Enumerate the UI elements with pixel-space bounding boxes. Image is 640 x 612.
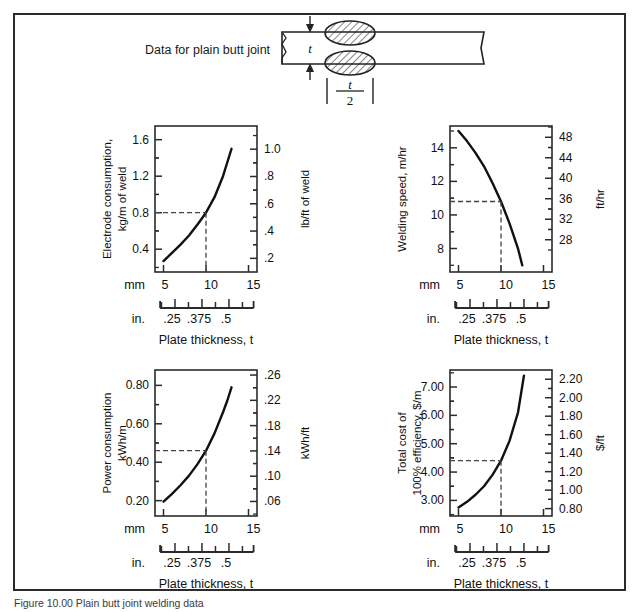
y-tick-label: 6.00 — [421, 408, 445, 422]
y2-tick-label: 1.80 — [559, 409, 583, 423]
x-tick-label-mm: 5 — [457, 278, 464, 292]
mm-unit-tag: mm — [124, 522, 145, 536]
y2-tick-label: 48 — [559, 130, 573, 144]
y2-tick-label: 0.80 — [559, 502, 583, 516]
y2-tick-label: 32 — [559, 212, 573, 226]
svg-text:2: 2 — [347, 93, 354, 108]
y2-tick-label: 28 — [559, 233, 573, 247]
x-tick-label-in: .25 — [163, 312, 180, 326]
chart-total-cost: 3.004.005.006.007.000.801.001.201.401.60… — [325, 362, 615, 592]
mm-unit-tag: mm — [419, 522, 440, 536]
y-axis-title: Total cost of — [396, 412, 408, 474]
y2-tick-label: .4 — [264, 224, 274, 238]
y2-axis-title: ft/hr — [594, 189, 606, 209]
x-tick-label-in: .375 — [482, 556, 506, 570]
y-tick-label: 3.00 — [421, 493, 445, 507]
y2-tick-label: .22 — [264, 393, 281, 407]
x-tick-label-in: .25 — [458, 556, 475, 570]
in-unit-tag: in. — [132, 312, 145, 326]
y2-tick-label: .14 — [264, 444, 281, 458]
x-tick-label-in: .25 — [458, 312, 475, 326]
y2-tick-label: .18 — [264, 419, 281, 433]
y2-tick-label: .10 — [264, 469, 281, 483]
y-tick-label: 7.00 — [421, 380, 445, 394]
x-tick-label-mm: 10 — [204, 278, 218, 292]
chart-electrode-consumption: 0.40.81.21.6.2.4.6.81.051015mm.25.375.5i… — [30, 118, 320, 348]
y-tick-label: 4.00 — [421, 465, 445, 479]
x-tick-label-in: .5 — [221, 556, 231, 570]
y2-tick-label: 1.60 — [559, 428, 583, 442]
y2-tick-label: 44 — [559, 151, 573, 165]
y-tick-label: 0.4 — [132, 242, 149, 256]
svg-text:t: t — [348, 77, 352, 92]
x-tick-label-mm: 15 — [247, 278, 261, 292]
in-unit-tag: in. — [427, 312, 440, 326]
y-tick-label: 0.80 — [126, 378, 150, 392]
y-tick-label: 10 — [431, 208, 445, 222]
y-axis-title: kWh/m — [116, 425, 128, 461]
x-tick-label-in: .25 — [163, 556, 180, 570]
x-axis-title: Plate thickness, t — [159, 333, 254, 347]
x-tick-label-in: .5 — [516, 312, 526, 326]
mm-unit-tag: mm — [124, 278, 145, 292]
data-curve — [164, 387, 232, 501]
header-left-label: Data for plain butt joint — [145, 43, 270, 57]
svg-text:t: t — [308, 41, 312, 56]
x-tick-label-mm: 5 — [162, 522, 169, 536]
y2-tick-label: 40 — [559, 171, 573, 185]
y2-axis-title: kWh/ft — [299, 426, 311, 459]
y2-tick-label: 2.00 — [559, 391, 583, 405]
x-tick-label-mm: 10 — [499, 278, 513, 292]
y2-tick-label: .2 — [264, 251, 274, 265]
y-tick-label: 0.8 — [132, 206, 149, 220]
butt-joint-diagram: t t 2 — [276, 12, 491, 112]
y-tick-label: 0.60 — [126, 417, 150, 431]
x-axis-title: Plate thickness, t — [159, 577, 254, 591]
y-tick-label: 12 — [431, 174, 445, 188]
data-curve — [164, 149, 232, 261]
y2-tick-label: .8 — [264, 169, 274, 183]
x-tick-label-mm: 10 — [204, 522, 218, 536]
x-tick-label-mm: 15 — [247, 522, 261, 536]
x-tick-label-mm: 15 — [542, 522, 556, 536]
x-tick-label-in: .375 — [187, 312, 211, 326]
x-axis-title: Plate thickness, t — [454, 333, 549, 347]
figure-caption: Figure 10.00 Plain butt joint welding da… — [14, 597, 626, 611]
x-tick-label-in: .375 — [187, 556, 211, 570]
y-tick-label: 1.6 — [132, 133, 149, 147]
x-tick-label-mm: 10 — [499, 522, 513, 536]
y-tick-label: 0.20 — [126, 494, 150, 508]
data-curve — [459, 131, 523, 265]
y2-tick-label: 1.00 — [559, 483, 583, 497]
chart-panel-welding-speed: 810121428323640444851015mm.25.375.5in.Pl… — [325, 118, 615, 348]
x-axis-title: Plate thickness, t — [454, 577, 549, 591]
chart-panel-electrode-consumption: 0.40.81.21.6.2.4.6.81.051015mm.25.375.5i… — [30, 118, 320, 348]
mm-unit-tag: mm — [419, 278, 440, 292]
x-tick-label-in: .375 — [482, 312, 506, 326]
plot-frame — [155, 126, 257, 272]
y2-tick-label: 2.20 — [559, 372, 583, 386]
in-unit-tag: in. — [132, 556, 145, 570]
y2-tick-label: .26 — [264, 368, 281, 382]
weld-joint-header: Data for plain butt joint Flat position … — [0, 8, 640, 113]
chart-welding-speed: 810121428323640444851015mm.25.375.5in.Pl… — [325, 118, 615, 348]
data-curve — [459, 376, 524, 508]
y2-tick-label: 1.0 — [264, 142, 281, 156]
x-tick-label-in: .5 — [516, 556, 526, 570]
y2-tick-label: .6 — [264, 197, 274, 211]
y-tick-label: 14 — [431, 141, 445, 155]
y-axis-title: 100% efficiency, $/m — [411, 390, 423, 495]
y-tick-label: 1.2 — [132, 169, 149, 183]
y-tick-label: 8 — [437, 242, 444, 256]
y2-tick-label: 1.20 — [559, 465, 583, 479]
y2-tick-label: 1.40 — [559, 446, 583, 460]
y-axis-title: Electrode consumption, — [101, 139, 113, 259]
chart-panel-total-cost: 3.004.005.006.007.000.801.001.201.401.60… — [325, 362, 615, 592]
y-tick-label: 0.40 — [126, 455, 150, 469]
y-axis-title: Power consumption — [101, 393, 113, 494]
chart-panel-power-consumption: 0.200.400.600.80.06.10.14.18.22.2651015m… — [30, 362, 320, 592]
x-tick-label-in: .5 — [221, 312, 231, 326]
x-tick-label-mm: 15 — [542, 278, 556, 292]
in-unit-tag: in. — [427, 556, 440, 570]
y2-tick-label: .06 — [264, 494, 281, 508]
